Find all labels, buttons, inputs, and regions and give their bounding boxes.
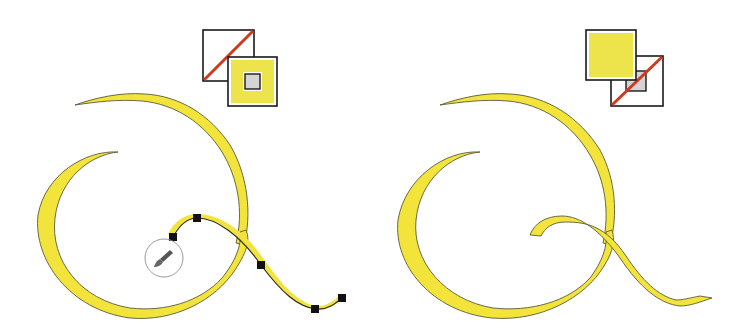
selected-brush-stroke[interactable] — [168, 214, 343, 310]
ribbon-top-stroke — [440, 94, 615, 245]
panel-before — [38, 30, 346, 318]
paintbrush-icon — [154, 250, 173, 267]
fill-stroke-swatch[interactable] — [586, 30, 663, 106]
anchor-point[interactable] — [193, 214, 201, 222]
ribbon-bowl-stroke — [38, 152, 248, 319]
anchor-point[interactable] — [257, 261, 265, 269]
ribbon-bowl-stroke — [398, 152, 614, 319]
paintbrush-cursor — [145, 239, 183, 277]
illustration-canvas — [0, 0, 753, 336]
anchor-point[interactable] — [338, 294, 346, 302]
panel-after — [398, 30, 712, 318]
fill-stroke-swatch[interactable] — [203, 30, 277, 106]
finished-brush-stroke — [530, 216, 712, 306]
anchor-point[interactable] — [311, 305, 319, 313]
fill-yellow-swatch[interactable] — [586, 30, 636, 80]
stroke-yellow-swatch[interactable] — [228, 57, 277, 106]
